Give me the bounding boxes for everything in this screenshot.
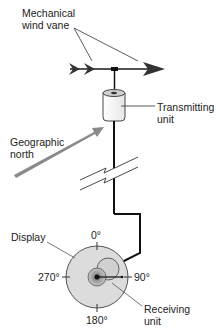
receiving-unit-label-line1: Receiving xyxy=(144,303,190,315)
compass-north-label: 0° xyxy=(91,229,101,241)
display-label-text: Display xyxy=(11,231,45,243)
wind-vane-leader-lines xyxy=(74,28,138,61)
wind-vane-label-line1: Mechanical xyxy=(22,7,75,19)
transmitting-unit-icon xyxy=(103,90,155,122)
cable xyxy=(114,121,140,264)
wind-vane-diagram: Mechanical wind vane Transmitting unit G… xyxy=(0,0,216,330)
geographic-north-label-line2: north xyxy=(10,148,64,160)
receiving-unit-label: Receiving unit xyxy=(144,303,190,327)
receiving-unit-label-line2: unit xyxy=(144,315,190,327)
compass-west-label: 270° xyxy=(38,271,60,283)
display-label: Display xyxy=(11,231,45,243)
wind-vane-label-line2: wind vane xyxy=(22,19,75,31)
transmitting-unit-label-line2: unit xyxy=(157,113,214,125)
compass-south-label: 180° xyxy=(86,314,108,326)
compass-east-label: 90° xyxy=(134,271,150,283)
geographic-north-label: Geographic north xyxy=(10,136,64,160)
wind-vane-label: Mechanical wind vane xyxy=(22,7,75,31)
break-marks xyxy=(80,157,138,190)
transmitting-unit-label-line1: Transmitting xyxy=(157,101,214,113)
wind-vane-icon xyxy=(69,62,165,89)
geographic-north-label-line1: Geographic xyxy=(10,136,64,148)
transmitting-unit-label: Transmitting unit xyxy=(157,101,214,125)
diagram-graphic xyxy=(0,0,216,330)
